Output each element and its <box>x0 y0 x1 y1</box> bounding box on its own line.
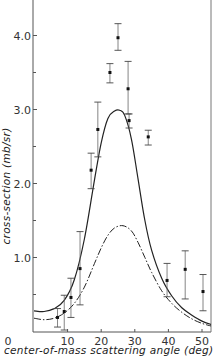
y-tick-label: 3.0 <box>14 104 32 117</box>
point-marker <box>117 36 120 39</box>
y-axis-label: cross-section (mb/sr) <box>0 127 12 244</box>
point-marker <box>90 169 93 172</box>
point-marker <box>79 267 82 270</box>
data-point <box>115 24 122 51</box>
data-point <box>54 309 61 328</box>
data-point <box>125 61 132 114</box>
y-tick-label: 2.0 <box>14 178 32 191</box>
data-point <box>145 130 152 145</box>
point-marker <box>56 316 59 319</box>
point-marker <box>184 268 187 271</box>
point-marker <box>166 279 169 282</box>
point-marker <box>202 290 205 293</box>
cross-section-chart: 1.02.03.04.0 01020304050 cross-section (… <box>0 0 219 357</box>
data-point <box>67 278 74 317</box>
point-marker <box>108 71 111 74</box>
data-point <box>106 64 113 83</box>
point-marker <box>128 119 131 122</box>
plot-frame <box>33 0 211 332</box>
x-axis-label: center-of-mass scattering angle (deg) <box>4 344 213 356</box>
point-marker <box>63 310 66 313</box>
point-marker <box>147 135 150 138</box>
point-marker <box>127 87 130 90</box>
data-point <box>61 295 68 330</box>
data-point <box>200 275 207 311</box>
y-tick-label: 4.0 <box>14 30 32 43</box>
y-tick-label: 1.0 <box>14 252 32 265</box>
data-point <box>182 251 189 299</box>
point-marker <box>96 128 99 131</box>
data-points <box>54 24 206 330</box>
point-marker <box>69 296 72 299</box>
